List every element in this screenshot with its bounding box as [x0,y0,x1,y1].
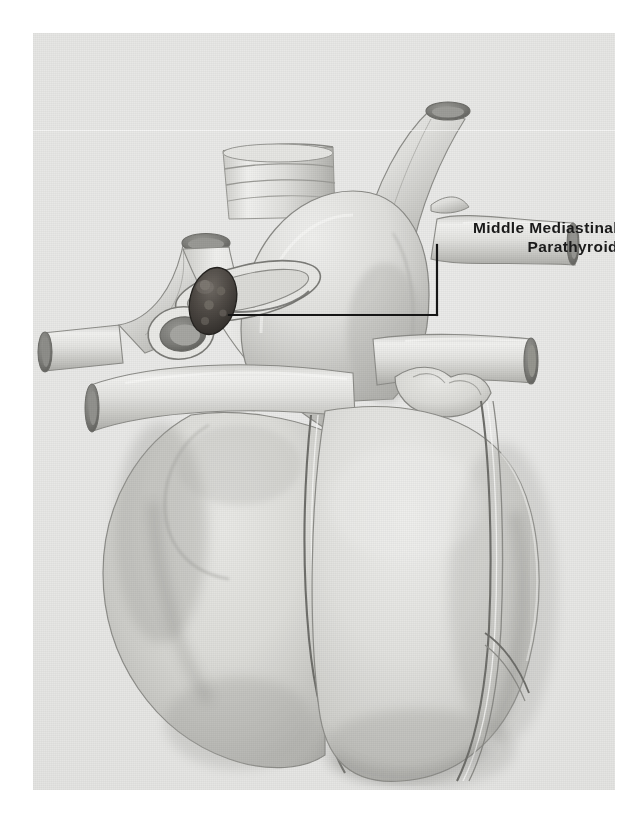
left-brachiocephalic-vein-stump [38,325,123,372]
great-vessels-group [38,102,579,433]
heart-anatomy-illustration [33,33,615,790]
annotation-label-line-1: Middle Mediastinal [418,218,615,237]
right-ventricle [103,412,325,769]
vessel-nub [431,197,469,213]
annotation-label: Middle Mediastinal Parathyroid [418,218,615,256]
heart-body-group [103,367,557,789]
page-canvas: Middle Mediastinal Parathyroid [0,0,643,816]
illustration-plate: Middle Mediastinal Parathyroid [33,33,615,790]
annotation-label-line-2: Parathyroid [418,237,615,256]
